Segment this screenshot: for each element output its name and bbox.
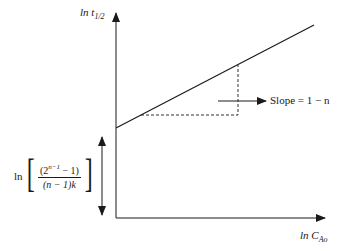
intercept-fraction: (2n−1 − 1) (n − 1)k <box>38 163 81 190</box>
left-bracket: [ <box>26 154 34 194</box>
right-bracket: ] <box>85 154 93 194</box>
intercept-denominator: (n − 1)k <box>43 178 76 190</box>
intercept-label: ln [ (2n−1 − 1) (n − 1)k ] <box>14 148 95 204</box>
x-axis-label-subscript: Ao <box>319 235 328 244</box>
slope-label: Slope = 1 − n <box>270 94 329 106</box>
intercept-numerator: (2n−1 − 1) <box>38 163 81 178</box>
x-axis-label: ln CAo <box>300 229 328 244</box>
y-axis-label: ln t1/2 <box>80 6 105 21</box>
numerator-base: (2 <box>40 165 48 176</box>
numerator-tail: − 1) <box>60 165 79 176</box>
numerator-exponent: n−1 <box>48 163 60 171</box>
intercept-ln: ln <box>14 170 23 182</box>
data-line <box>116 25 314 128</box>
diagram-canvas <box>0 0 347 251</box>
y-axis-label-text: ln t <box>80 6 94 18</box>
y-axis-label-subscript: 1/2 <box>94 12 104 21</box>
x-axis-label-text: ln C <box>300 229 319 241</box>
